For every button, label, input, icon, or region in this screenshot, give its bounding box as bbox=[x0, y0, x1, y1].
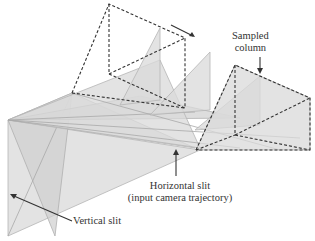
horizontal-slit-label-line2: (input camera trajectory) bbox=[106, 192, 254, 204]
vertical-slit-label-line1: Vertical slit bbox=[73, 215, 121, 227]
sampled-column-arrowhead-icon bbox=[257, 68, 263, 74]
motion-arrow bbox=[171, 25, 193, 36]
sampled-column-label: Sampled column bbox=[232, 30, 269, 54]
right-prism-fill bbox=[196, 65, 310, 150]
column-plane-1 bbox=[120, 28, 160, 105]
horizontal-slit-label-line1: Horizontal slit bbox=[136, 180, 224, 192]
vertical-slit-label: Vertical slit bbox=[73, 215, 121, 227]
horizontal-slit-label: Horizontal slit (input camera trajectory… bbox=[136, 180, 224, 204]
sampled-column-label-line2: column bbox=[232, 42, 269, 54]
sampled-column-label-line1: Sampled bbox=[232, 30, 269, 42]
